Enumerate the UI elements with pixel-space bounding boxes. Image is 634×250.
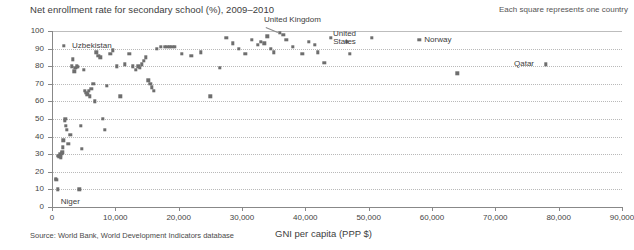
data-point [237, 47, 240, 50]
x-tick-label: 70,000 [483, 213, 507, 222]
data-point [291, 45, 294, 48]
data-point [56, 188, 59, 191]
data-point [101, 117, 104, 120]
y-tick [48, 66, 52, 67]
data-point [128, 52, 131, 55]
point-label: Niger [61, 198, 80, 206]
data-point [173, 45, 176, 48]
x-tick [115, 207, 116, 211]
x-tick [622, 207, 623, 211]
data-point [134, 68, 137, 71]
y-tick [48, 119, 52, 120]
data-point [316, 50, 319, 53]
data-point [91, 82, 94, 85]
x-tick-label: 10,000 [103, 213, 127, 222]
x-tick-label: 0 [50, 213, 54, 222]
gridline-y [52, 189, 622, 190]
data-point [79, 124, 82, 127]
data-point [140, 63, 143, 66]
y-tick [48, 154, 52, 155]
x-tick-label: 50,000 [356, 213, 380, 222]
data-point [98, 56, 101, 59]
data-point [243, 52, 246, 55]
y-tick-label: 80 [4, 61, 44, 70]
data-point [109, 52, 112, 55]
data-point [199, 50, 202, 53]
gridline-y [52, 137, 622, 138]
data-point [119, 94, 122, 97]
data-point [190, 54, 193, 57]
data-point [456, 72, 459, 75]
data-point [307, 40, 310, 43]
x-tick-label: 40,000 [293, 213, 317, 222]
x-tick [559, 207, 560, 211]
data-point [250, 38, 253, 41]
y-tick-label: 30 [4, 149, 44, 158]
data-point [418, 38, 421, 41]
data-point [65, 128, 68, 131]
point-label: Norway [424, 36, 451, 44]
data-point [144, 56, 147, 59]
data-point [218, 66, 221, 69]
data-point [138, 66, 141, 69]
data-point [62, 138, 65, 141]
y-tick-label: 90 [4, 44, 44, 53]
data-point [231, 42, 234, 45]
y-tick-label: 20 [4, 167, 44, 176]
data-point [323, 61, 326, 64]
x-tick [305, 207, 306, 211]
x-tick-label: 60,000 [420, 213, 444, 222]
gridline-y [52, 49, 622, 50]
x-tick-label: 80,000 [546, 213, 570, 222]
data-point [71, 57, 74, 60]
y-tick [48, 49, 52, 50]
x-tick-label: 90,000 [610, 213, 634, 222]
data-point [285, 38, 288, 41]
x-tick [179, 207, 180, 211]
data-point [69, 133, 72, 136]
chart-root: Net enrollment rate for secondary school… [0, 0, 634, 250]
y-tick [48, 189, 52, 190]
y-tick-label: 50 [4, 114, 44, 123]
data-point [64, 117, 67, 120]
data-point [281, 33, 284, 36]
data-point [152, 89, 155, 92]
data-point [62, 44, 65, 47]
data-point [59, 156, 62, 159]
data-point [67, 142, 70, 145]
data-point [55, 178, 58, 181]
data-point [256, 43, 259, 46]
data-point [272, 50, 275, 53]
data-point [209, 94, 212, 97]
source-note: Source: World Bank, World Development In… [30, 231, 234, 240]
y-tick-label: 0 [4, 202, 44, 211]
y-tick-label: 100 [4, 26, 44, 35]
data-point [123, 63, 126, 66]
data-point [105, 84, 108, 87]
y-axis [52, 31, 53, 207]
data-point [80, 147, 83, 150]
x-tick [495, 207, 496, 211]
data-point [60, 151, 63, 154]
data-point [142, 59, 145, 62]
gridline-y [52, 101, 622, 102]
data-point [82, 68, 85, 71]
data-point [348, 52, 351, 55]
data-point [224, 36, 227, 39]
point-label: United Kingdom [264, 16, 321, 24]
x-tick [242, 207, 243, 211]
data-point [155, 47, 158, 50]
y-tick-label: 40 [4, 132, 44, 141]
gridline-y [52, 84, 622, 85]
gridline-y [52, 172, 622, 173]
data-point [93, 100, 96, 103]
data-point [90, 87, 93, 90]
data-point [544, 63, 547, 66]
x-tick [369, 207, 370, 211]
data-point [313, 43, 316, 46]
data-point [78, 188, 81, 191]
chart-note: Each square represents one country [499, 5, 628, 14]
data-point [329, 36, 332, 39]
x-tick-label: 30,000 [230, 213, 254, 222]
data-point [76, 65, 79, 68]
